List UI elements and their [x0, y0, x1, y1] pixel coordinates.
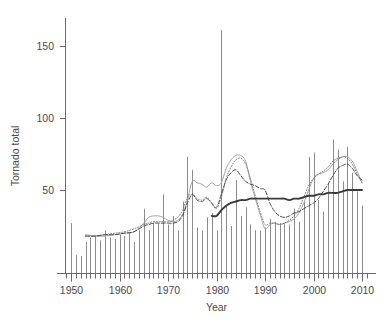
bar-series — [72, 30, 363, 273]
tornado-total-chart — [0, 0, 391, 324]
series-solid-thin-smooth — [86, 155, 362, 236]
x-tick-label-1970: 1970 — [144, 284, 194, 296]
series-dotted-smooth — [86, 157, 362, 236]
x-tick-label-2000: 2000 — [290, 284, 340, 296]
x-axis-title: Year — [167, 301, 267, 313]
y-tick-label-100: 100 — [20, 112, 54, 124]
y-tick-marks — [60, 47, 66, 191]
y-tick-label-50: 50 — [20, 184, 54, 196]
x-tick-label-1950: 1950 — [47, 284, 97, 296]
x-tick-label-2010: 2010 — [338, 284, 388, 296]
series-solid-thick-trend — [212, 190, 362, 216]
x-tick-label-1960: 1960 — [96, 284, 146, 296]
y-tick-label-150: 150 — [20, 40, 54, 52]
y-axis-title: Tornado total — [9, 106, 21, 206]
x-tick-label-1990: 1990 — [241, 284, 291, 296]
chart-figure: 50100150 1950196019701980199020002010 To… — [0, 0, 391, 324]
x-tick-label-1980: 1980 — [193, 284, 243, 296]
line-series-group — [86, 155, 362, 236]
